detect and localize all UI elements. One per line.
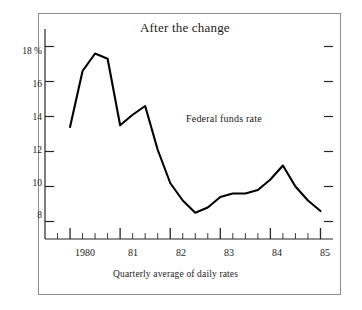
series-line-federal-funds-rate: [70, 54, 320, 213]
x-axis-tick-marks: [58, 228, 321, 239]
y-axis: [45, 29, 54, 239]
y-axis-tick-marks: [45, 47, 54, 222]
chart-figure: After the change 18 % 16 14 12 10 8 1980…: [0, 0, 362, 310]
right-axis-ticks: [324, 47, 333, 222]
x-axis: [45, 228, 333, 239]
plot-area: [0, 0, 362, 310]
